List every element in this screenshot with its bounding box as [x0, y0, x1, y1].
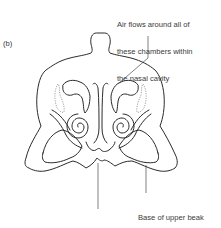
chambers-annotation-line-1: Air flows around all of [117, 20, 193, 29]
left-lateral-wall [50, 110, 82, 148]
left-spiral-concha [67, 114, 88, 138]
chambers-annotation-line-3: the nasal cavity [117, 74, 193, 83]
right-spiral-concha [113, 114, 134, 138]
right-lateral-wall [119, 110, 151, 148]
beak-annotation: Base of upper beak inside roof of mouth [138, 195, 205, 228]
chambers-annotation-line-2: these chambers within [117, 47, 193, 56]
left-lower-chamber [42, 130, 82, 163]
outflow-annotation: Air passes out of the nasal cavity towar… [34, 210, 145, 228]
chambers-annotation: Air flows around all of these chambers w… [117, 2, 193, 92]
central-keel [86, 142, 115, 152]
nasal-septum [93, 83, 108, 143]
right-lower-chamber [119, 130, 159, 163]
left-upper-concha [63, 80, 90, 113]
beak-annotation-line-1: Base of upper beak [138, 213, 205, 222]
